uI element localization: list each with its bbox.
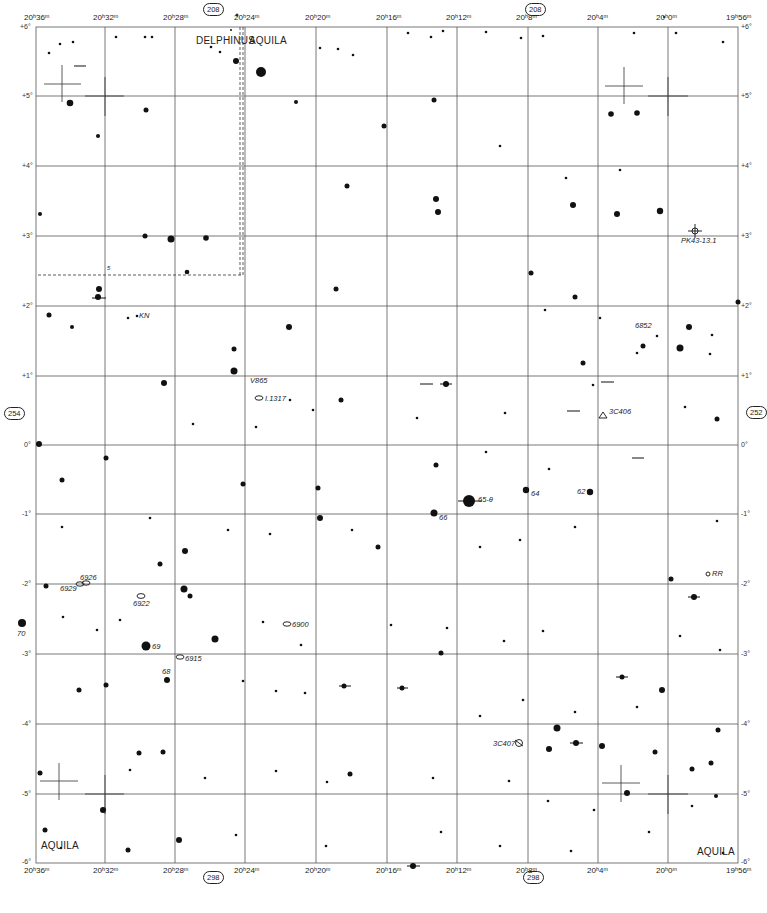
object-label-6900[interactable]: 6900 bbox=[292, 620, 309, 629]
dec-label-right: +4° bbox=[741, 162, 752, 169]
dec-label-left: +6° bbox=[20, 23, 31, 30]
object-label-pk43[interactable]: PK43-13.1 bbox=[681, 236, 716, 245]
constellation-label-aquila: AQUILA bbox=[41, 840, 79, 851]
object-label-i1317[interactable]: I.1317 bbox=[265, 394, 286, 403]
object-label-65-theta[interactable]: 65-θ bbox=[478, 495, 493, 504]
dec-label-left: -3° bbox=[22, 650, 31, 657]
object-label-rr[interactable]: RR bbox=[712, 569, 723, 578]
page-ref-left[interactable]: 254 bbox=[4, 407, 25, 420]
dec-label-left: -6° bbox=[22, 858, 31, 865]
dec-label-right: +6° bbox=[741, 23, 752, 30]
constellation-label-delphinus: DELPHINUS bbox=[196, 35, 255, 46]
ra-label-top: 20ʰ24ᵐ bbox=[234, 13, 259, 22]
dec-label-right: -4° bbox=[741, 720, 750, 727]
ra-label-top: 19ʰ56ᵐ bbox=[726, 13, 751, 22]
ra-label-bottom: 20ʰ16ᵐ bbox=[376, 866, 401, 875]
object-label-64[interactable]: 64 bbox=[531, 489, 539, 498]
object-label-v865[interactable]: V865 bbox=[250, 376, 268, 385]
dec-label-right: +5° bbox=[741, 92, 752, 99]
deep-sky-symbols bbox=[76, 224, 710, 747]
dec-label-left: +3° bbox=[22, 232, 33, 239]
object-label-62[interactable]: 62 bbox=[577, 487, 585, 496]
object-label-6929[interactable]: 6929 bbox=[60, 584, 77, 593]
object-label-6922[interactable]: 6922 bbox=[133, 599, 150, 608]
ra-label-top: 20ʰ32ᵐ bbox=[93, 13, 118, 22]
object-label-3c407[interactable]: 3C407 bbox=[493, 739, 515, 748]
object-label-6915[interactable]: 6915 bbox=[185, 654, 202, 663]
ra-label-top: 20ʰ8ᵐ bbox=[516, 13, 537, 22]
page-ref-top[interactable]: 208 bbox=[203, 3, 224, 16]
ra-label-top: 20ʰ4ᵐ bbox=[587, 13, 608, 22]
ra-label-bottom: 20ʰ20ᵐ bbox=[305, 866, 330, 875]
constellation-boundary bbox=[36, 27, 243, 275]
dec-label-left: +2° bbox=[22, 302, 33, 309]
dec-label-left: -5° bbox=[22, 790, 31, 797]
constellation-label-aquila: AQUILA bbox=[249, 35, 287, 46]
dec-label-right: -6° bbox=[741, 858, 750, 865]
ra-label-bottom: 20ʰ12ᵐ bbox=[446, 866, 471, 875]
ra-label-bottom: 20ʰ0ᵐ bbox=[656, 866, 677, 875]
object-label-kn[interactable]: KN bbox=[139, 311, 149, 320]
ra-label-bottom: 19ʰ56ᵐ bbox=[726, 866, 751, 875]
ra-label-bottom: 20ʰ28ᵐ bbox=[163, 866, 188, 875]
ra-label-bottom: 20ʰ24ᵐ bbox=[234, 866, 259, 875]
object-label-3c406[interactable]: 3C406 bbox=[609, 407, 631, 416]
dec-label-left: -2° bbox=[22, 580, 31, 587]
page-ref-right[interactable]: 252 bbox=[746, 406, 767, 419]
page-ref-bottom[interactable]: 298 bbox=[203, 871, 224, 884]
object-label-6926[interactable]: 6926 bbox=[80, 573, 97, 582]
dec-label-right: 0° bbox=[741, 441, 748, 448]
dec-label-right: -5° bbox=[741, 790, 750, 797]
ra-label-top: 20ʰ28ᵐ bbox=[163, 13, 188, 22]
dec-label-right: -3° bbox=[741, 650, 750, 657]
ra-label-top: 20ʰ16ᵐ bbox=[376, 13, 401, 22]
dec-label-right: -1° bbox=[741, 510, 750, 517]
dec-label-left: +1° bbox=[22, 372, 33, 379]
object-label-68[interactable]: 68 bbox=[162, 667, 170, 676]
coordinate-grid bbox=[36, 27, 738, 863]
object-label-66[interactable]: 66 bbox=[439, 513, 447, 522]
constellation-label-aquila: AQUILA bbox=[697, 846, 735, 857]
dec-label-right: +1° bbox=[741, 372, 752, 379]
crosshair-markers bbox=[40, 65, 688, 814]
ra-label-top: 20ʰ12ᵐ bbox=[446, 13, 471, 22]
dec-label-left: 0° bbox=[24, 441, 31, 448]
ra-label-top: 20ʰ36ᵐ bbox=[24, 13, 49, 22]
ra-label-bottom: 20ʰ36ᵐ bbox=[24, 866, 49, 875]
dec-label-left: -4° bbox=[22, 720, 31, 727]
object-label-5[interactable]: 5 bbox=[107, 265, 110, 271]
stars bbox=[18, 16, 741, 869]
dec-label-left: +4° bbox=[22, 162, 33, 169]
ra-label-top: 20ʰ0ᵐ bbox=[656, 13, 677, 22]
ra-label-bottom: 20ʰ8ᵐ bbox=[516, 866, 537, 875]
dec-label-right: +2° bbox=[741, 302, 752, 309]
object-label-69[interactable]: 69 bbox=[152, 642, 160, 651]
ra-label-top: 20ʰ20ᵐ bbox=[305, 13, 330, 22]
ra-label-bottom: 20ʰ4ᵐ bbox=[587, 866, 608, 875]
object-label-6852[interactable]: 6852 bbox=[635, 321, 652, 330]
object-label-70[interactable]: 70 bbox=[17, 629, 25, 638]
dec-label-left: -1° bbox=[22, 510, 31, 517]
dec-label-right: -2° bbox=[741, 580, 750, 587]
dec-label-right: +3° bbox=[741, 232, 752, 239]
ra-label-bottom: 20ʰ32ᵐ bbox=[93, 866, 118, 875]
dec-label-left: +5° bbox=[22, 92, 33, 99]
